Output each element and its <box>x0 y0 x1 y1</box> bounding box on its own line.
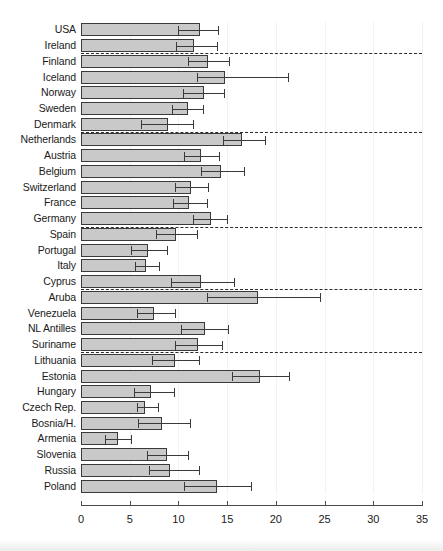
error-bar-line <box>197 77 288 78</box>
error-bar-line <box>141 124 193 125</box>
category-label-column: USAIrelandFinlandIcelandNorwaySwedenDenm… <box>0 22 76 494</box>
x-axis-tick <box>130 501 131 506</box>
error-bar-cap-low <box>134 388 135 397</box>
error-bar-line <box>131 250 167 251</box>
group-separator <box>81 289 422 290</box>
error-bar-cap-high <box>207 199 208 208</box>
error-bar-line <box>223 140 265 141</box>
error-bar-cap-low <box>137 309 138 318</box>
group-separator <box>81 53 422 54</box>
error-bar-line <box>156 234 197 235</box>
error-bar-cap-low <box>152 356 153 365</box>
plot-area <box>81 22 422 494</box>
error-bar-cap-high <box>229 57 230 66</box>
error-bar-line <box>183 93 224 94</box>
error-bar-cap-low <box>171 278 172 287</box>
error-bar-cap-high <box>217 42 218 51</box>
error-bar-cap-low <box>223 136 224 145</box>
x-axis-tick-label: 15 <box>221 514 233 525</box>
error-bar-cap-low <box>175 183 176 192</box>
error-bar-cap-high <box>188 451 189 460</box>
category-label: Austria <box>44 150 76 161</box>
error-bar-cap-high <box>131 435 132 444</box>
bar-chart-figure: USAIrelandFinlandIcelandNorwaySwedenDenm… <box>0 0 443 551</box>
error-bar-cap-high <box>222 341 223 350</box>
category-label: Hungary <box>37 386 76 397</box>
category-label: USA <box>55 24 76 35</box>
x-axis-tick-label: 10 <box>172 514 184 525</box>
error-bar-cap-low <box>178 26 179 35</box>
error-bar-cap-low <box>232 372 233 381</box>
error-bar-cap-low <box>184 482 185 491</box>
gridline <box>227 22 228 494</box>
category-label: Finland <box>42 56 76 67</box>
x-axis-tick-label: 30 <box>367 514 379 525</box>
bar-netherlands <box>81 133 242 146</box>
category-label: Estonia <box>42 371 76 382</box>
x-axis-tick <box>81 501 82 506</box>
category-label: Spain <box>50 229 76 240</box>
category-label: Denmark <box>34 119 76 130</box>
category-label: Germany <box>34 213 76 224</box>
error-bar-cap-low <box>147 451 148 460</box>
gridline <box>325 22 326 494</box>
error-bar-cap-high <box>159 262 160 271</box>
error-bar-cap-low <box>156 230 157 239</box>
scan-artifact <box>0 539 443 551</box>
error-bar-cap-low <box>175 341 176 350</box>
error-bar-cap-low <box>176 42 177 51</box>
error-bar-cap-high <box>234 278 235 287</box>
error-bar-cap-high <box>193 120 194 129</box>
category-label: Venezuela <box>28 308 76 319</box>
gridline <box>276 22 277 494</box>
error-bar-cap-low <box>135 262 136 271</box>
category-label: Czech Rep. <box>22 402 76 413</box>
error-bar-cap-low <box>173 199 174 208</box>
error-bar-cap-high <box>244 167 245 176</box>
category-label: France <box>44 197 76 208</box>
category-label: Switzerland <box>23 182 76 193</box>
error-bar-line <box>176 46 218 47</box>
category-label: Portugal <box>38 245 76 256</box>
error-bar-cap-high <box>227 215 228 224</box>
error-bar-line <box>138 423 190 424</box>
error-bar-cap-high <box>265 136 266 145</box>
error-bar-cap-high <box>288 73 289 82</box>
error-bar-cap-high <box>219 152 220 161</box>
x-axis-tick <box>227 501 228 506</box>
error-bar-line <box>149 470 199 471</box>
x-axis-tick-label: 20 <box>270 514 282 525</box>
x-axis-tick-label: 5 <box>127 514 133 525</box>
bar-germany <box>81 212 211 225</box>
category-label: Cyprus <box>43 276 76 287</box>
error-bar-line <box>175 345 223 346</box>
category-label: Sweden <box>39 103 76 114</box>
error-bar-cap-high <box>208 183 209 192</box>
category-label: Russia <box>45 465 77 476</box>
error-bar-line <box>105 439 130 440</box>
error-bar-line <box>152 360 199 361</box>
error-bar-cap-low <box>138 419 139 428</box>
category-label: Aruba <box>48 292 76 303</box>
error-bar-cap-low <box>105 435 106 444</box>
error-bar-cap-high <box>175 309 176 318</box>
category-label: Belgium <box>39 166 76 177</box>
error-bar-cap-high <box>197 230 198 239</box>
category-label: Netherlands <box>20 134 76 145</box>
error-bar-line <box>134 392 174 393</box>
x-axis-tick-label: 0 <box>78 514 84 525</box>
error-bar-line <box>137 407 158 408</box>
error-bar-cap-low <box>193 215 194 224</box>
category-label: Armenia <box>38 433 76 444</box>
category-label: Italy <box>57 260 76 271</box>
error-bar-line <box>178 30 218 31</box>
x-axis-tick <box>325 501 326 506</box>
error-bar-cap-low <box>131 246 132 255</box>
category-label: Bosnia/H. <box>31 418 76 429</box>
error-bar-line <box>193 219 227 220</box>
error-bar-cap-high <box>190 419 191 428</box>
error-bar-line <box>232 376 289 377</box>
gridline <box>422 22 423 494</box>
gridline <box>373 22 374 494</box>
error-bar-cap-low <box>181 325 182 334</box>
